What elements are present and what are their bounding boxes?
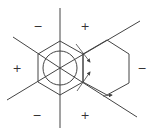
sign-left: + xyxy=(12,63,21,74)
rays xyxy=(7,8,140,128)
ray-lower-right xyxy=(60,68,137,117)
hexagon-sign-diagram xyxy=(0,0,153,138)
sign-top-left: − xyxy=(33,21,42,32)
sign-top-right: + xyxy=(80,21,89,32)
arrow-right-hex xyxy=(103,95,112,96)
sign-bottom-right: + xyxy=(80,110,89,121)
sign-right: − xyxy=(137,63,146,74)
sign-bottom-left: − xyxy=(32,110,41,121)
